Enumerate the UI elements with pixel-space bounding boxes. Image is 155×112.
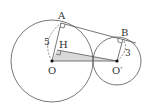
diagram-svg: A B H O O′ 5 3 xyxy=(0,0,155,112)
length-label-5: 5 xyxy=(44,37,50,47)
point-O xyxy=(50,59,53,62)
label-B: B xyxy=(121,27,128,38)
label-O: O xyxy=(48,65,56,76)
tangent-circles-diagram: A B H O O′ 5 3 xyxy=(0,0,155,112)
point-O-prime xyxy=(115,59,118,62)
length-label-3: 3 xyxy=(125,48,131,58)
label-A: A xyxy=(57,10,66,21)
label-H: H xyxy=(59,39,68,50)
label-O-prime: O′ xyxy=(112,65,123,76)
